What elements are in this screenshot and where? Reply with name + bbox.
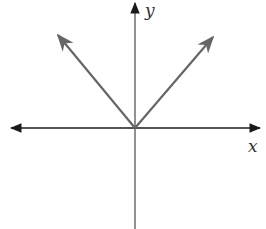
y-axis-label: y bbox=[144, 0, 155, 20]
right-ray bbox=[135, 37, 213, 128]
x-axis-label: x bbox=[248, 136, 258, 156]
left-ray bbox=[58, 35, 135, 128]
coordinate-graph: y x bbox=[0, 0, 266, 229]
